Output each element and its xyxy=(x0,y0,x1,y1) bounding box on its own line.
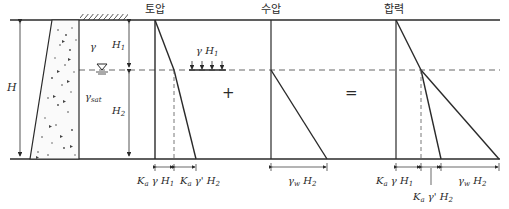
label-res-mid: Ka γ' H2 xyxy=(413,192,453,204)
label-surcharge: γ H1 xyxy=(196,46,218,58)
plus-operator: + xyxy=(222,86,235,101)
label-H2: H2 xyxy=(112,106,125,118)
label-H: H xyxy=(7,82,17,93)
label-water: γw H2 xyxy=(288,176,316,188)
title-soil-pressure: 토압 xyxy=(145,4,165,15)
equals-operator: = xyxy=(345,86,358,101)
water-pressure-diagram xyxy=(271,20,327,171)
label-soil-top: Ka γ H1 xyxy=(137,176,174,188)
label-res-top: Ka γ H1 xyxy=(376,176,413,188)
title-water-pressure: 수압 xyxy=(261,4,281,15)
label-H1: H1 xyxy=(112,40,125,52)
water-level-icon xyxy=(96,64,108,74)
soil-pressure-diagram xyxy=(155,20,226,171)
ground-hatch xyxy=(80,14,128,20)
label-soil-bottom: Ka γ' H2 xyxy=(180,176,220,188)
retaining-wall xyxy=(30,20,79,159)
label-gamma: γ xyxy=(90,42,96,52)
label-res-water: γw H2 xyxy=(458,176,486,188)
label-gamma-sat: γsat xyxy=(85,92,102,104)
title-resultant: 합력 xyxy=(384,4,404,15)
earth-pressure-diagram xyxy=(0,0,509,209)
resultant-pressure-diagram xyxy=(396,20,499,185)
